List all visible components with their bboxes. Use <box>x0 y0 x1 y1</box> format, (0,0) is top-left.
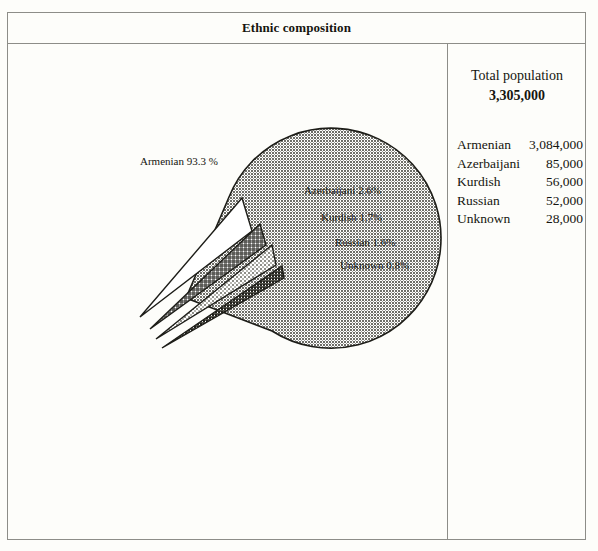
slice-label-unknown: Unknown 0.8% <box>340 259 409 271</box>
table-row: Unknown 28,000 <box>457 210 583 229</box>
group-name-armenian: Armenian <box>457 136 525 155</box>
slice-label-azerbaijani: Azerbaijani 2.6% <box>304 184 381 196</box>
table-row: Armenian 3,084,000 <box>457 136 583 155</box>
group-value-azerbaijani: 85,000 <box>525 155 583 174</box>
chart-page: Ethnic composition <box>0 0 598 551</box>
title-bar: Ethnic composition <box>7 12 586 44</box>
pie-chart-area: Armenian 93.3 % Azerbaijani 2.6% Kurdish… <box>8 44 447 540</box>
page-title: Ethnic composition <box>242 20 351 36</box>
group-value-kurdish: 56,000 <box>525 173 583 192</box>
group-value-unknown: 28,000 <box>525 210 583 229</box>
population-table: Armenian 3,084,000 Azerbaijani 85,000 Ku… <box>457 136 583 229</box>
group-name-kurdish: Kurdish <box>457 173 525 192</box>
pie-chart-svg <box>8 44 447 540</box>
group-value-armenian: 3,084,000 <box>525 136 583 155</box>
table-row: Kurdish 56,000 <box>457 173 583 192</box>
table-row: Azerbaijani 85,000 <box>457 155 583 174</box>
table-row: Russian 52,000 <box>457 192 583 211</box>
slice-label-armenian: Armenian 93.3 % <box>140 155 218 167</box>
group-name-unknown: Unknown <box>457 210 525 229</box>
slice-label-kurdish: Kurdish 1.7% <box>321 211 382 223</box>
summary-panel: Total population 3,305,000 Armenian 3,08… <box>448 44 586 540</box>
group-name-azerbaijani: Azerbaijani <box>457 155 525 174</box>
total-population-label: Total population <box>448 68 586 84</box>
group-name-russian: Russian <box>457 192 525 211</box>
slice-label-russian: Russian 1.6% <box>335 236 396 248</box>
group-value-russian: 52,000 <box>525 192 583 211</box>
total-population-value: 3,305,000 <box>448 88 586 104</box>
